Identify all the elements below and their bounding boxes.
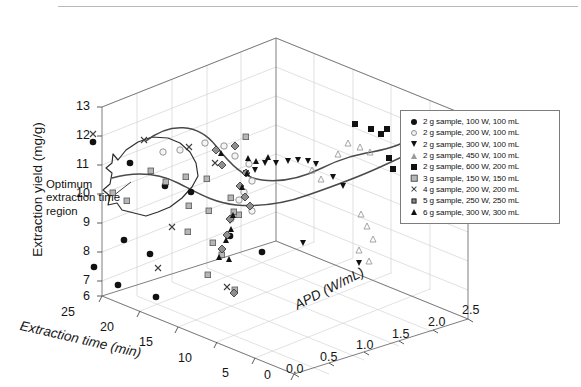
legend-item-label: 2 g sample, 450 W, 100 mL [423, 150, 519, 161]
open-up-triangle-icon [405, 150, 423, 161]
z-tick-label: 0.0 [286, 362, 303, 376]
legend-item-label: 2 g sample, 300 W, 100 mL [423, 139, 519, 150]
legend-item-label: 2 g sample, 200 W, 100 mL [423, 127, 519, 138]
legend-item[interactable]: 6 g sample, 300 W, 300 mL [405, 206, 555, 217]
y-tick-label: 7 [83, 273, 90, 287]
filled-circle-icon [405, 116, 423, 127]
legend-item-label: 5 g sample, 250 W, 250 mL [423, 195, 519, 206]
filled-square-icon [405, 161, 423, 172]
y-tick-label: 11 [76, 157, 89, 171]
legend-item[interactable]: 2 g sample, 200 W, 100 mL [405, 127, 555, 138]
z-tick-label: 2.0 [428, 315, 445, 329]
z-tick-label: 1.0 [356, 338, 373, 352]
z-tick-label: 1.5 [392, 327, 409, 341]
figure-3d-scatter-plot: Extraction yield (mg/g) Extraction time … [0, 0, 581, 387]
legend-item-label: 6 g sample, 300 W, 300 mL [423, 207, 519, 218]
legend-item-label: 3 g sample, 150 W, 150 mL [423, 173, 519, 184]
legend-item[interactable]: 4 g sample, 200 W, 200 mL [405, 184, 555, 195]
z-tick-label: 0.5 [320, 350, 337, 364]
z-axis-ticks [294, 319, 473, 377]
legend-item[interactable]: 2 g sample, 600 W, 200 mL [405, 161, 555, 172]
floor-gridlines [102, 241, 468, 374]
x-tick-label: 0 [264, 368, 271, 382]
legend-item-label: 2 g sample, 100 W, 100 mL [423, 116, 519, 127]
legend-item-label: 2 g sample, 600 W, 200 mL [423, 161, 519, 172]
x-tick-label: 10 [178, 351, 192, 365]
y-tick-label: 6 [83, 289, 90, 303]
series-2g-100w-points [90, 139, 266, 301]
legend-item[interactable]: 3 g sample, 150 W, 150 mL [405, 172, 555, 183]
legend: 2 g sample, 100 W, 100 mL 2 g sample, 20… [400, 110, 560, 224]
legend-item[interactable]: 2 g sample, 450 W, 100 mL [405, 150, 555, 161]
upper-trend-curve [146, 119, 443, 181]
y-tick-label: 12 [76, 128, 90, 142]
legend-item[interactable]: 2 g sample, 100 W, 100 mL [405, 116, 555, 127]
lower-trend-curve [112, 145, 430, 206]
x-tick-label: 20 [100, 320, 114, 334]
y-tick-label: 8 [83, 244, 90, 258]
cross-icon [405, 184, 423, 195]
filled-down-triangle-icon [405, 139, 423, 150]
y-tick-label: 13 [76, 99, 90, 113]
legend-item[interactable]: 5 g sample, 250 W, 250 mL [405, 195, 555, 206]
legend-item-label: 4 g sample, 200 W, 200 mL [423, 184, 519, 195]
filled-up-triangle-icon [405, 207, 423, 218]
legend-item[interactable]: 2 g sample, 300 W, 100 mL [405, 139, 555, 150]
grey-square-icon [405, 173, 423, 184]
x-tick-label: 25 [61, 305, 75, 319]
x-tick-label: 15 [139, 335, 153, 349]
y-axis-title: Extraction yield (mg/g) [30, 90, 45, 290]
x-tick-label: 5 [222, 366, 229, 380]
diamond-icon [405, 195, 423, 206]
open-circle-icon [405, 127, 423, 138]
z-tick-label: 2.5 [462, 303, 479, 317]
optimum-region-annotation: Optimum extraction time region [46, 178, 134, 218]
